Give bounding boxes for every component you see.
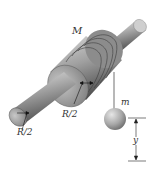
spool-mass-label: M xyxy=(72,26,82,36)
axle-radius-left-label: R/2 xyxy=(17,128,33,137)
hanging-mass xyxy=(104,108,126,130)
hanging-mass-label: m xyxy=(121,98,130,107)
spool-diagram: M m R/2 R/2 y xyxy=(0,0,161,170)
drop-distance-label: y xyxy=(133,136,138,145)
axle-radius-mid-label: R/2 xyxy=(62,110,78,119)
